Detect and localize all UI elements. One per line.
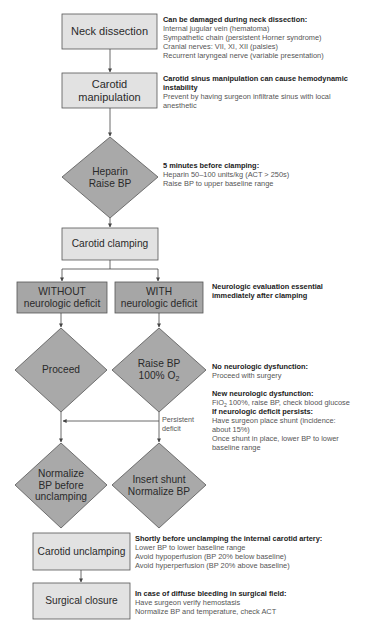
without-deficit-line2: neurologic deficit xyxy=(24,298,100,310)
note-no-dysfunction: No neurologic dysfunction: Proceed with … xyxy=(212,362,364,380)
carotid-unclamping-label: Carotid unclamping xyxy=(33,533,130,570)
raise-bp-o2-subscript: 2 xyxy=(175,375,179,383)
note-line: Raise BP to upper baseline range xyxy=(163,179,363,188)
note-clamping-heading-1: Neurologic evaluation essential xyxy=(212,282,362,291)
note-line: about 15%) xyxy=(212,425,366,434)
proceed-text: Proceed xyxy=(42,364,80,376)
note-neck-dissection-heading: Can be damaged during neck dissection: xyxy=(163,15,363,24)
note-fio2-line: FiO2 100%, raise BP, check blood glucose xyxy=(212,398,366,407)
insert-shunt-label: Insert shunt Normalize BP xyxy=(112,443,206,528)
raise-bp-line2: 100% O2 xyxy=(139,370,180,382)
with-deficit-label: WITH neurologic deficit xyxy=(115,282,203,313)
persistent-deficit-label: Persistent deficit xyxy=(162,415,194,433)
raise-bp-o2-prefix: 100% O xyxy=(139,370,176,381)
normalize-bp-line2: BP before xyxy=(38,480,83,492)
insert-shunt-line1: Insert shunt xyxy=(132,474,185,486)
carotid-clamping-label: Carotid clamping xyxy=(62,228,158,260)
heparin-label: Heparin Raise BP xyxy=(62,137,158,218)
normalize-bp-label: Normalize BP before unclamping xyxy=(15,443,107,528)
note-line: Lower BP to lower baseline range xyxy=(135,543,365,552)
note-persistent-heading: If neurologic deficit persists: xyxy=(212,407,366,416)
note-closure-heading: In case of diffuse bleeding in surgical … xyxy=(135,589,365,598)
fio2-suffix: 100%, raise BP, check blood glucose xyxy=(227,398,350,407)
note-heparin-heading: 5 minutes before clamping: xyxy=(163,161,363,170)
carotid-manipulation-line2: manipulation xyxy=(78,91,140,104)
note-heparin: 5 minutes before clamping: Heparin 50–10… xyxy=(163,161,363,188)
note-line: Sympathetic chain (persistent Horner syn… xyxy=(163,33,363,42)
note-new-dysfunction-heading: New neurologic dysfunction: xyxy=(212,389,366,398)
without-deficit-line1: WITHOUT xyxy=(38,286,86,298)
normalize-bp-line3: unclamping xyxy=(35,491,87,503)
note-line: Have surgeon place shunt (incidence: xyxy=(212,416,366,425)
note-line: Normalize BP and temperature, check ACT xyxy=(135,607,365,616)
persistent-deficit-line2: deficit xyxy=(162,424,194,433)
note-line: Cranial nerves: VII, XI, XII (palsies) xyxy=(163,42,363,51)
note-clamping: Neurologic evaluation essential immediat… xyxy=(212,282,362,300)
note-line: Have surgeon verify hemostasis xyxy=(135,598,365,607)
note-unclamping: Shortly before unclamping the internal c… xyxy=(135,534,365,570)
carotid-clamping-text: Carotid clamping xyxy=(72,238,148,250)
carotid-unclamping-text: Carotid unclamping xyxy=(38,546,126,558)
note-manipulation-heading-1: Carotid sinus manipulation can cause hem… xyxy=(163,74,366,83)
note-line: Proceed with surgery xyxy=(212,371,364,380)
note-closure: In case of diffuse bleeding in surgical … xyxy=(135,589,365,616)
insert-shunt-line2: Normalize BP xyxy=(128,486,190,498)
note-line: baseline range xyxy=(212,443,366,452)
note-no-dysfunction-heading: No neurologic dysfunction: xyxy=(212,362,364,371)
with-deficit-line2: neurologic deficit xyxy=(121,298,197,310)
heparin-line2: Raise BP xyxy=(89,178,131,190)
carotid-manipulation-line1: Carotid xyxy=(92,78,127,91)
surgical-closure-label: Surgical closure xyxy=(33,583,130,619)
surgical-closure-text: Surgical closure xyxy=(45,595,117,607)
proceed-label: Proceed xyxy=(15,328,107,412)
without-deficit-label: WITHOUT neurologic deficit xyxy=(17,282,107,313)
heparin-line1: Heparin xyxy=(92,166,128,178)
note-line: Prevent by having surgeon infiltrate sin… xyxy=(163,92,366,101)
note-unclamping-heading: Shortly before unclamping the internal c… xyxy=(135,534,365,543)
note-line: Avoid hypoperfusion (BP 20% below baseli… xyxy=(135,552,365,561)
note-line: Avoid hyperperfusion (BP 20% above basel… xyxy=(135,561,365,570)
neck-dissection-label: Neck dissection xyxy=(62,14,157,49)
note-line: Once shunt in place, lower BP to lower xyxy=(212,434,366,443)
note-line: Heparin 50–100 units/kg (ACT > 250s) xyxy=(163,170,363,179)
note-line: anesthetic xyxy=(163,101,366,110)
with-deficit-line1: WITH xyxy=(146,286,172,298)
note-manipulation-heading-2: instability xyxy=(163,83,366,92)
note-line: Recurrent laryngeal nerve (variable pres… xyxy=(163,51,363,60)
neck-dissection-text: Neck dissection xyxy=(71,25,148,38)
persistent-deficit-line1: Persistent xyxy=(162,415,194,424)
note-new-dysfunction: New neurologic dysfunction: FiO2 100%, r… xyxy=(212,389,366,452)
raise-bp-line1: Raise BP xyxy=(138,358,180,370)
note-carotid-manipulation: Carotid sinus manipulation can cause hem… xyxy=(163,74,366,110)
note-neck-dissection: Can be damaged during neck dissection: I… xyxy=(163,15,363,60)
raise-bp-label: Raise BP 100% O2 xyxy=(112,328,206,412)
carotid-manipulation-label: Carotid manipulation xyxy=(62,73,157,108)
note-clamping-heading-2: immediately after clamping xyxy=(212,291,362,300)
fio2-prefix: FiO xyxy=(212,398,224,407)
note-line: Internal jugular vein (hematoma) xyxy=(163,24,363,33)
normalize-bp-line1: Normalize xyxy=(38,468,84,480)
